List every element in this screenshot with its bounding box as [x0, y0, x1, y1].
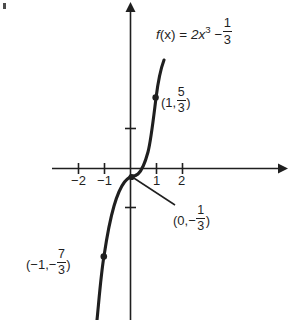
paren-close: ) [66, 257, 70, 272]
x-axis-arrowhead [278, 164, 288, 174]
paren-close: ) [186, 95, 190, 110]
point-label-0-neg-1-3: (0,− 1 3 ) [173, 204, 210, 233]
point-label-1-5-3: (1, 5 3 ) [161, 86, 190, 115]
x-tick-label--1: −1 [97, 174, 112, 187]
x-tick-label-2: 2 [178, 174, 185, 187]
x-tick-label--2: −2 [71, 174, 86, 187]
point-y-sign: − [49, 257, 57, 272]
point-x-value: −1 [30, 257, 45, 272]
point-x-value: 1 [165, 95, 172, 110]
equals-sign: = [179, 27, 187, 42]
point-y-fraction: 1 3 [196, 204, 205, 233]
fraction-numerator: 7 [57, 248, 66, 261]
function-equation-label: f(x) = 2x3 − 1 3 [156, 17, 232, 47]
point-y-sign: − [188, 213, 196, 228]
paren-close: ) [206, 213, 210, 228]
comma: , [173, 95, 177, 110]
fraction-denominator: 3 [196, 219, 205, 232]
y-axis [125, 2, 136, 320]
fraction-numerator: 1 [223, 17, 232, 31]
point-marker-0-neg-1-3 [129, 174, 135, 180]
point-y-fraction: 7 3 [57, 248, 66, 277]
x-axis [52, 163, 288, 174]
fraction-numerator: 1 [196, 204, 205, 217]
point-x-value: 0 [177, 213, 184, 228]
graph-figure: f(x) = 2x3 − 1 3 −2 −1 1 2 (1, 5 3 ) (0,… [0, 0, 291, 320]
y-axis-arrowhead [126, 2, 136, 12]
point-marker-1-5-3 [152, 94, 158, 100]
leading-term: 2x [191, 27, 205, 42]
point-marker-neg1-neg-7-3 [101, 253, 108, 260]
constant-fraction: 1 3 [223, 17, 232, 47]
point-label-neg1-neg-7-3: (−1,− 7 3 ) [26, 248, 71, 277]
fraction-denominator: 3 [57, 263, 66, 276]
x-tick-label-1: 1 [153, 174, 160, 187]
fraction-denominator: 3 [177, 101, 186, 114]
point-y-fraction: 5 3 [177, 86, 186, 115]
function-argument: (x) [160, 27, 176, 42]
minus-sign: − [214, 27, 222, 42]
fraction-denominator: 3 [223, 33, 232, 47]
fraction-numerator: 5 [177, 86, 186, 99]
scan-artifact-speck [3, 3, 6, 9]
exponent: 3 [205, 24, 210, 35]
